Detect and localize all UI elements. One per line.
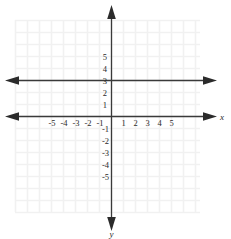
- x-tick-label: 3: [145, 118, 149, 128]
- y-tick-label: -3: [102, 148, 109, 158]
- x-tick-label: 1: [121, 118, 125, 128]
- y-tick-label: -5: [102, 172, 109, 182]
- y-tick-label: 1: [103, 100, 107, 110]
- x-tick-label: 2: [133, 118, 137, 128]
- y-tick-labels-negative: -1 -2 -3 -4 -5: [102, 124, 110, 182]
- graph-canvas: -5 -4 -3 -2 -1 1 2 3 4 5 5 4 3 2 1 -1 -2…: [0, 0, 231, 239]
- figure-background: [0, 0, 231, 239]
- x-tick-label: 5: [169, 118, 173, 128]
- x-tick-label: -4: [60, 118, 68, 128]
- y-tick-label: 2: [103, 88, 107, 98]
- y-tick-label: -1: [102, 124, 109, 134]
- x-tick-label: -3: [72, 118, 79, 128]
- y-tick-label: -4: [102, 160, 110, 170]
- x-axis-label: x: [219, 112, 224, 122]
- y-tick-label: 3: [103, 76, 107, 86]
- coordinate-plane-figure: -5 -4 -3 -2 -1 1 2 3 4 5 5 4 3 2 1 -1 -2…: [0, 0, 231, 239]
- x-tick-label: -2: [84, 118, 91, 128]
- y-tick-label: 5: [103, 52, 107, 62]
- y-tick-label: -2: [102, 136, 109, 146]
- x-tick-label: -5: [48, 118, 55, 128]
- y-axis-label: y: [109, 229, 114, 239]
